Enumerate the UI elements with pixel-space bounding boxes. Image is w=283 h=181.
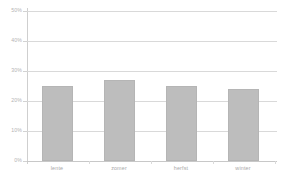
x-axis-label-herfst: herfst xyxy=(151,166,211,171)
y-tick-30 xyxy=(23,71,27,72)
bar-chart: 50% 40% 30% 20% 10% 0% lente zomer herfs… xyxy=(0,0,283,181)
y-axis-label-30: 30% xyxy=(0,68,22,73)
y-axis-label-0: 0% xyxy=(0,158,22,163)
y-axis-label-50: 50% xyxy=(0,8,22,13)
x-axis-label-zomer: zomer xyxy=(89,166,149,171)
gridline-50 xyxy=(27,11,277,12)
bar-winter[interactable] xyxy=(228,89,259,161)
bar-lente[interactable] xyxy=(42,86,73,161)
y-axis-label-10: 10% xyxy=(0,128,22,133)
x-tick-3 xyxy=(213,161,214,164)
plot-area xyxy=(27,11,277,161)
gridline-baseline-0 xyxy=(27,161,277,162)
x-tick-1 xyxy=(89,161,90,164)
y-axis-label-40: 40% xyxy=(0,38,22,43)
y-axis-label-20: 20% xyxy=(0,98,22,103)
x-axis-label-lente: lente xyxy=(27,166,87,171)
y-tick-10 xyxy=(23,131,27,132)
y-tick-50 xyxy=(23,11,27,12)
bar-herfst[interactable] xyxy=(166,86,197,161)
x-tick-2 xyxy=(151,161,152,164)
y-tick-0 xyxy=(23,161,27,162)
x-axis-label-winter: winter xyxy=(213,166,273,171)
bar-zomer[interactable] xyxy=(104,80,135,161)
y-tick-20 xyxy=(23,101,27,102)
gridline-30 xyxy=(27,71,277,72)
x-tick-4 xyxy=(275,161,276,164)
gridline-40 xyxy=(27,41,277,42)
y-tick-40 xyxy=(23,41,27,42)
